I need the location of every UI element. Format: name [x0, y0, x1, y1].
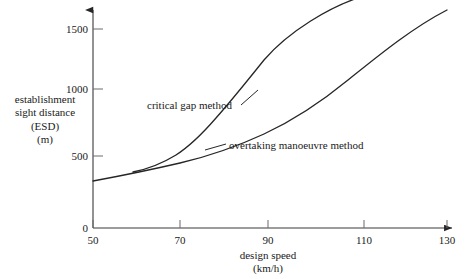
x-axis-label-text: design speed	[200, 249, 336, 262]
series-label-critical-gap-method: critical gap method	[147, 99, 232, 111]
x-tick-label-50: 50	[88, 234, 99, 246]
y-axis-label-line-4: (m)	[2, 133, 88, 146]
x-tick-label-90: 90	[263, 234, 274, 246]
y-tick-label-1500: 1500	[52, 23, 88, 35]
chart-figure: 1500 1000 500 0 50 70 90 110 130 establi…	[0, 0, 465, 279]
y-axis-label: establishment sight distance (ESD) (m)	[2, 93, 88, 147]
critical-gap-leader-line	[241, 90, 258, 105]
y-axis-label-line-3: (ESD)	[2, 120, 88, 133]
series-label-overtaking-manoeuvre-method: overtaking manoeuvre method	[229, 139, 363, 151]
x-tick-label-70: 70	[175, 234, 186, 246]
overtaking-leader-line	[205, 144, 226, 150]
curve-overtaking-manoeuvre-method	[93, 10, 447, 181]
x-tick-label-130: 130	[439, 234, 456, 246]
x-axis-label: design speed (km/h)	[200, 249, 336, 276]
x-tick-label-110: 110	[356, 234, 372, 246]
x-axis-label-units: (km/h)	[200, 262, 336, 275]
y-tick-label-500: 500	[52, 150, 88, 162]
y-tick-label-0: 0	[52, 222, 88, 234]
y-axis-label-line-2: sight distance	[2, 106, 88, 119]
y-axis-label-line-1: establishment	[2, 93, 88, 106]
